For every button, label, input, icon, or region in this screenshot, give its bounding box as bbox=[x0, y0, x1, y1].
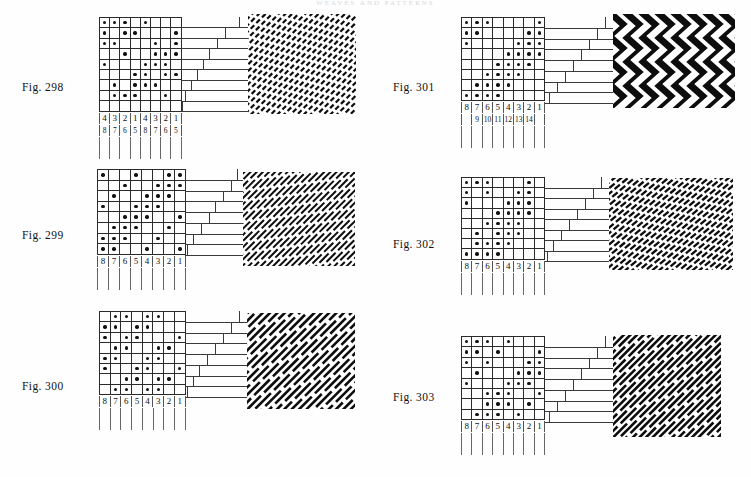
grid-cell-filled[interactable] bbox=[110, 18, 120, 28]
grid-cell-empty[interactable] bbox=[504, 368, 514, 378]
grid-cell-empty[interactable] bbox=[120, 170, 131, 181]
grid-cell-empty[interactable] bbox=[141, 28, 151, 38]
grid-cell-empty[interactable] bbox=[483, 209, 493, 219]
grid-cell-empty[interactable] bbox=[535, 410, 545, 420]
grid-cell-filled[interactable] bbox=[504, 198, 514, 208]
grid-cell-filled[interactable] bbox=[462, 379, 472, 389]
grid-cell-empty[interactable] bbox=[175, 343, 186, 353]
grid-cell-filled[interactable] bbox=[504, 399, 514, 409]
grid-cell-filled[interactable] bbox=[100, 333, 111, 343]
grid-cell-filled[interactable] bbox=[153, 354, 164, 364]
grid-cell-empty[interactable] bbox=[110, 70, 120, 80]
grid-cell-empty[interactable] bbox=[493, 198, 503, 208]
grid-cell-empty[interactable] bbox=[514, 18, 524, 28]
grid-cell-empty[interactable] bbox=[514, 91, 524, 101]
grid-cell-filled[interactable] bbox=[493, 399, 503, 409]
grid-cell-filled[interactable] bbox=[472, 410, 482, 420]
grid-cell-filled[interactable] bbox=[483, 80, 493, 90]
grid-cell-filled[interactable] bbox=[493, 91, 503, 101]
grid-cell-empty[interactable] bbox=[483, 60, 493, 70]
grid-cell-filled[interactable] bbox=[504, 60, 514, 70]
grid-cell-filled[interactable] bbox=[493, 389, 503, 399]
grid-cell-filled[interactable] bbox=[524, 379, 534, 389]
grid-cell-empty[interactable] bbox=[493, 28, 503, 38]
grid-cell-empty[interactable] bbox=[161, 39, 171, 49]
grid-cell-empty[interactable] bbox=[493, 39, 503, 49]
grid-cell-empty[interactable] bbox=[504, 347, 514, 357]
grid-cell-filled[interactable] bbox=[493, 249, 503, 259]
grid-cell-empty[interactable] bbox=[472, 399, 482, 409]
grid-cell-empty[interactable] bbox=[524, 347, 534, 357]
grid-cell-filled[interactable] bbox=[142, 212, 153, 223]
grid-cell-empty[interactable] bbox=[535, 209, 545, 219]
grid-cell-filled[interactable] bbox=[175, 333, 186, 343]
grid-cell-filled[interactable] bbox=[504, 49, 514, 59]
grid-cell-filled[interactable] bbox=[493, 229, 503, 239]
grid-cell-filled[interactable] bbox=[535, 368, 545, 378]
grid-cell-empty[interactable] bbox=[164, 364, 175, 374]
grid-cell-filled[interactable] bbox=[524, 198, 534, 208]
grid-cell-filled[interactable] bbox=[504, 229, 514, 239]
grid-cell-empty[interactable] bbox=[98, 181, 109, 192]
grid-cell-empty[interactable] bbox=[472, 358, 482, 368]
grid-cell-filled[interactable] bbox=[100, 60, 110, 70]
grid-cell-empty[interactable] bbox=[142, 170, 153, 181]
grid-cell-filled[interactable] bbox=[109, 223, 120, 234]
grid-cell-filled[interactable] bbox=[514, 198, 524, 208]
grid-cell-filled[interactable] bbox=[143, 322, 154, 332]
grid-cell-filled[interactable] bbox=[151, 60, 161, 70]
grid-cell-empty[interactable] bbox=[483, 347, 493, 357]
grid-cell-empty[interactable] bbox=[535, 219, 545, 229]
grid-cell-empty[interactable] bbox=[524, 80, 534, 90]
grid-cell-empty[interactable] bbox=[120, 39, 130, 49]
grid-cell-filled[interactable] bbox=[164, 170, 175, 181]
grid-cell-empty[interactable] bbox=[472, 70, 482, 80]
grid-cell-empty[interactable] bbox=[141, 49, 151, 59]
grid-cell-filled[interactable] bbox=[514, 188, 524, 198]
grid-cell-filled[interactable] bbox=[483, 239, 493, 249]
grid-cell-empty[interactable] bbox=[164, 322, 175, 332]
grid-cell-filled[interactable] bbox=[483, 410, 493, 420]
grid-cell-empty[interactable] bbox=[462, 239, 472, 249]
grid-cell-empty[interactable] bbox=[153, 333, 164, 343]
grid-cell-empty[interactable] bbox=[175, 374, 186, 384]
grid-cell-filled[interactable] bbox=[472, 80, 482, 90]
grid-cell-empty[interactable] bbox=[98, 223, 109, 234]
grid-cell-empty[interactable] bbox=[462, 70, 472, 80]
grid-cell-empty[interactable] bbox=[151, 70, 161, 80]
grid-cell-filled[interactable] bbox=[493, 239, 503, 249]
grid-cell-empty[interactable] bbox=[462, 209, 472, 219]
grid-cell-filled[interactable] bbox=[493, 60, 503, 70]
grid-cell-empty[interactable] bbox=[472, 389, 482, 399]
grid-cell-filled[interactable] bbox=[100, 39, 110, 49]
grid-cell-filled[interactable] bbox=[142, 202, 153, 213]
grid-cell-filled[interactable] bbox=[120, 181, 131, 192]
grid-cell-filled[interactable] bbox=[483, 389, 493, 399]
grid-cell-empty[interactable] bbox=[535, 379, 545, 389]
grid-cell-empty[interactable] bbox=[504, 358, 514, 368]
grid-cell-empty[interactable] bbox=[164, 234, 175, 245]
grid-cell-filled[interactable] bbox=[143, 364, 154, 374]
grid-cell-empty[interactable] bbox=[462, 219, 472, 229]
grid-cell-empty[interactable] bbox=[100, 101, 110, 111]
grid-cell-empty[interactable] bbox=[504, 91, 514, 101]
grid-cell-empty[interactable] bbox=[143, 374, 154, 384]
grid-cell-filled[interactable] bbox=[493, 347, 503, 357]
grid-cell-empty[interactable] bbox=[100, 70, 110, 80]
grid-cell-empty[interactable] bbox=[535, 188, 545, 198]
grid-cell-filled[interactable] bbox=[151, 80, 161, 90]
grid-cell-filled[interactable] bbox=[153, 202, 164, 213]
grid-cell-empty[interactable] bbox=[141, 39, 151, 49]
grid-cell-empty[interactable] bbox=[175, 312, 186, 322]
grid-cell-filled[interactable] bbox=[472, 28, 482, 38]
grid-cell-empty[interactable] bbox=[100, 91, 110, 101]
grid-cell-empty[interactable] bbox=[131, 244, 142, 255]
grid-cell-filled[interactable] bbox=[120, 28, 130, 38]
grid-cell-empty[interactable] bbox=[161, 28, 171, 38]
grid-cell-filled[interactable] bbox=[472, 368, 482, 378]
grid-cell-empty[interactable] bbox=[514, 358, 524, 368]
grid-cell-empty[interactable] bbox=[472, 60, 482, 70]
grid-cell-empty[interactable] bbox=[504, 188, 514, 198]
grid-cell-empty[interactable] bbox=[120, 60, 130, 70]
grid-cell-filled[interactable] bbox=[504, 209, 514, 219]
